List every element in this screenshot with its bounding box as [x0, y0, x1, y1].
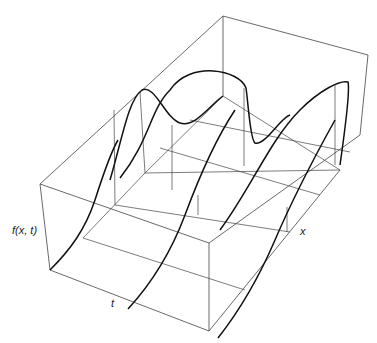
bounding-box — [40, 16, 368, 331]
axis-label-depth: t — [111, 297, 114, 309]
axis-label-horizontal: x — [300, 225, 306, 237]
base-grid — [83, 96, 350, 290]
wireframe-plot — [0, 0, 377, 343]
surface-curves — [50, 71, 348, 338]
figure-3d-surface: f(x, t) t x — [0, 0, 377, 343]
axis-label-vertical: f(x, t) — [12, 224, 37, 236]
